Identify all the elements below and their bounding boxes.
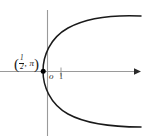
x-axis-arrowhead-icon bbox=[134, 68, 141, 75]
x-axis-tick-label-1: 1 bbox=[59, 73, 63, 81]
point-coordinate-label: (12, π) bbox=[14, 55, 39, 72]
label-open-paren: ( bbox=[14, 56, 19, 72]
origin-label: o bbox=[49, 72, 54, 81]
label-close-paren: ) bbox=[34, 56, 39, 72]
vertex-point-marker bbox=[41, 69, 46, 74]
parabola-lower-branch bbox=[43, 71, 141, 127]
parabola-upper-branch bbox=[43, 16, 141, 71]
figure-canvas: (12, π) o 1 bbox=[0, 0, 145, 136]
label-comma: , bbox=[24, 58, 27, 68]
